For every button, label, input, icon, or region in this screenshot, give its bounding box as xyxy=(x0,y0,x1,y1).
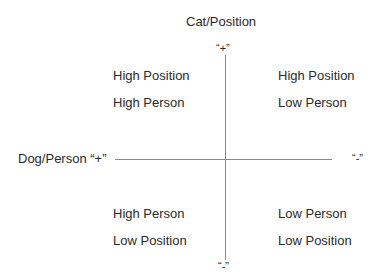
quadrant-label: Low Position xyxy=(278,233,352,248)
quadrant-label: Low Person xyxy=(278,206,347,221)
horizontal-axis-left-label: Dog/Person “+” xyxy=(18,151,107,166)
quadrant-label: High Position xyxy=(113,68,190,83)
quadrant-label: High Position xyxy=(278,68,355,83)
horizontal-axis-line xyxy=(115,159,332,160)
vertical-axis-bottom-label: “-” xyxy=(218,260,229,272)
vertical-axis-line xyxy=(225,55,226,260)
diagram-title: Cat/Position xyxy=(186,14,256,29)
quadrant-label: Low Position xyxy=(113,233,187,248)
quadrant-label: Low Person xyxy=(278,95,347,110)
vertical-axis-top-label: “+” xyxy=(216,42,230,54)
quadrant-label: High Person xyxy=(113,206,185,221)
quadrant-label: High Person xyxy=(113,95,185,110)
horizontal-axis-right-label: “-” xyxy=(352,152,363,164)
